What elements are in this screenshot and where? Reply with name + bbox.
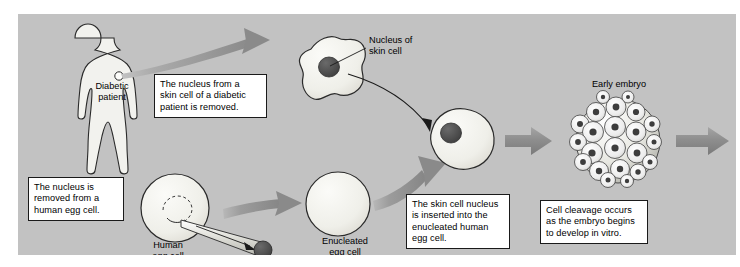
label-nucleus-of-skin-cell: Nucleus of skin cell (369, 35, 439, 58)
transferred-nucleus-icon (441, 123, 462, 143)
diagram-figure: Diabetic patient Nucleus of skin cell Hu… (0, 0, 740, 267)
label-human-egg-cell: Human egg cell (139, 240, 197, 255)
callout-nucleus-inserted: The skin cell nucleus is inserted into t… (406, 194, 510, 249)
block-arrow-exit-icon (676, 127, 729, 155)
curved-arrow-icon (121, 28, 270, 79)
reconstructed-cell-icon (431, 109, 494, 170)
enucleated-egg-cell-icon (306, 172, 370, 236)
label-early-embryo: Early embryo (586, 79, 652, 90)
label-diabetic-patient: Diabetic patient (80, 81, 144, 104)
callout-cell-cleavage: Cell cleavage occurs as the embryo begin… (540, 200, 648, 244)
label-enucleated-egg-cell: Enucleated egg cell (309, 236, 381, 255)
skin-cell-nucleus-icon (319, 57, 340, 77)
morula-embryo-icon (570, 91, 662, 188)
extracted-egg-nucleus-icon (254, 241, 272, 255)
skin-cell-large-icon (299, 37, 365, 100)
callout-skin-nucleus-removed: The nucleus from a skin cell of a diabet… (154, 74, 267, 118)
curved-arrow-egg-icon (223, 191, 302, 219)
diagram-panel: Diabetic patient Nucleus of skin cell Hu… (18, 14, 736, 255)
callout-egg-nucleus-removed: The nucleus is removed from a human egg … (28, 177, 124, 221)
block-arrow-icon (505, 127, 552, 155)
